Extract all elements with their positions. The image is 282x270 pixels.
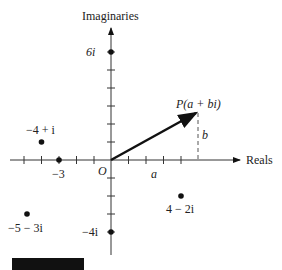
point-label-neg4-plus-i: −4 + i: [26, 123, 56, 137]
point-label-neg4i: −4i: [82, 225, 99, 239]
plotted-points: [24, 49, 184, 235]
vector-p: [111, 113, 196, 160]
component-label-a: a: [151, 167, 157, 181]
imaginaries-label: Imaginaries: [82, 9, 139, 23]
vector-label: P(a + bi): [175, 97, 221, 111]
component-label-b: b: [202, 128, 208, 142]
point-label-6i: 6i: [86, 45, 95, 59]
point-label-neg3: −3: [52, 167, 65, 181]
origin-label: O: [98, 164, 107, 178]
reals-label: Reals: [246, 153, 273, 167]
figure-caption-tab: [12, 258, 84, 270]
point-label-4-minus-2i: 4 − 2i: [166, 202, 195, 216]
point-label-neg5-minus-3i: −5 − 3i: [8, 221, 44, 235]
